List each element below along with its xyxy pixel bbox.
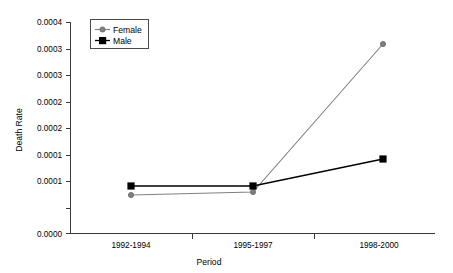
legend-label-female: Female: [113, 25, 142, 35]
y-tick-label: 0.0001: [37, 151, 62, 160]
y-tick-label: 0.0000: [37, 230, 62, 239]
y-axis-title: Death Rate: [14, 108, 24, 152]
line-chart: 0.0004 0.0003 0.0003 0.0002 0.0002 0.000…: [0, 0, 453, 273]
data-point-male: [127, 182, 134, 189]
legend-label-male: Male: [113, 36, 132, 46]
x-category-label: 1998-2000: [359, 241, 399, 250]
x-category-label: 1992-1994: [111, 241, 151, 250]
legend-marker-male-icon: [99, 37, 106, 44]
y-tick-label: 0.0001: [37, 177, 62, 186]
x-axis-title: Period: [197, 257, 222, 267]
data-point-male: [379, 155, 386, 162]
data-point-female: [380, 41, 385, 46]
data-point-female: [250, 189, 255, 194]
x-category-label: 1995-1997: [233, 241, 273, 250]
y-tick-label: 0.0002: [37, 124, 62, 133]
y-tick-label: 0.0004: [37, 18, 62, 27]
chart-legend: Female Male: [91, 20, 149, 49]
legend-marker-female-icon: [100, 27, 105, 32]
y-tick-label: 0.0003: [37, 45, 62, 54]
data-point-female: [128, 192, 133, 197]
chart-canvas: 0.0004 0.0003 0.0003 0.0002 0.0002 0.000…: [0, 0, 453, 273]
y-tick-label: 0.0003: [37, 71, 62, 80]
y-tick-label: 0.0002: [37, 98, 62, 107]
data-point-male: [249, 182, 256, 189]
chart-background: [0, 0, 453, 273]
